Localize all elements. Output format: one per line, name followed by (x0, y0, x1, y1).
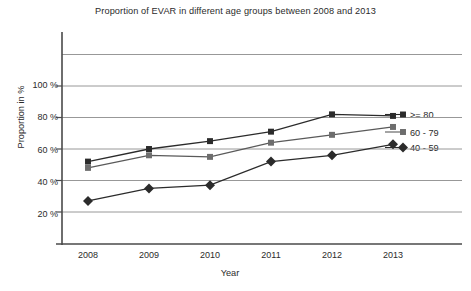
series-line-1 (88, 127, 393, 168)
legend-marker-1 (400, 129, 406, 135)
data-point-2-1 (144, 183, 154, 193)
data-point-2-4 (327, 150, 337, 160)
data-point-1-4 (329, 132, 335, 138)
data-point-2-0 (83, 196, 93, 206)
chart-container: Proportion of EVAR in different age grou… (0, 0, 471, 291)
data-point-1-1 (146, 152, 152, 158)
series-lines (88, 114, 393, 201)
data-point-1-2 (207, 154, 213, 160)
legend-marker-0 (400, 112, 406, 118)
series-line-0 (88, 114, 393, 161)
data-point-1-3 (268, 140, 274, 146)
data-point-0-4 (329, 111, 335, 117)
axis-ticks (56, 86, 62, 212)
plot-area (0, 0, 471, 291)
data-point-0-2 (207, 138, 213, 144)
data-point-1-5 (390, 124, 396, 130)
data-point-0-0 (85, 159, 91, 165)
data-point-2-3 (266, 157, 276, 167)
data-point-0-1 (146, 146, 152, 152)
legend-marker-2 (398, 143, 408, 153)
axis-lines (56, 32, 462, 245)
data-point-0-5 (390, 113, 396, 119)
data-point-1-0 (85, 165, 91, 171)
data-point-2-2 (205, 180, 215, 190)
data-point-0-3 (268, 129, 274, 135)
